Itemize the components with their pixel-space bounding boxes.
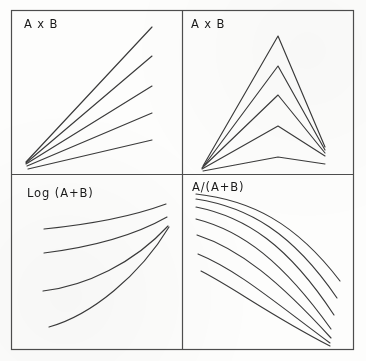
br-ogive-5	[197, 235, 331, 338]
tr-tent-4	[202, 126, 325, 169]
panel-label-bottom-right: A/(A+B)	[192, 180, 244, 194]
bl-curve-2	[44, 217, 167, 253]
figure-canvas	[0, 0, 366, 361]
panel-label-top-left: A x B	[24, 17, 58, 31]
br-ogive-4	[196, 219, 331, 329]
tr-tent-3	[202, 95, 325, 168]
four-panel-figure: A x B A x B Log (A+B) A/(A+B)	[0, 0, 366, 361]
bl-curve-3	[43, 226, 168, 291]
panel-top-right-curves	[202, 36, 325, 171]
panel-label-bottom-left: Log (A+B)	[27, 186, 94, 200]
br-ogive-6	[198, 254, 330, 343]
br-ogive-3	[196, 207, 334, 315]
tl-line-5	[28, 140, 152, 169]
panel-label-top-right: A x B	[191, 17, 225, 31]
tr-tent-1	[203, 36, 325, 166]
figure-frame	[12, 11, 354, 350]
tl-line-4	[27, 113, 152, 166]
tl-line-3	[26, 86, 152, 164]
br-ogive-1	[196, 194, 340, 281]
tr-tent-2	[203, 66, 325, 167]
tl-line-1	[26, 27, 152, 162]
tr-tent-5	[203, 157, 325, 171]
tl-line-2	[26, 56, 152, 163]
bl-curve-1	[44, 204, 166, 229]
br-ogive-2	[196, 199, 337, 298]
panel-bottom-left-curves	[43, 204, 169, 327]
panel-bottom-right-curves	[196, 194, 340, 346]
panel-top-left-curves	[26, 27, 152, 169]
